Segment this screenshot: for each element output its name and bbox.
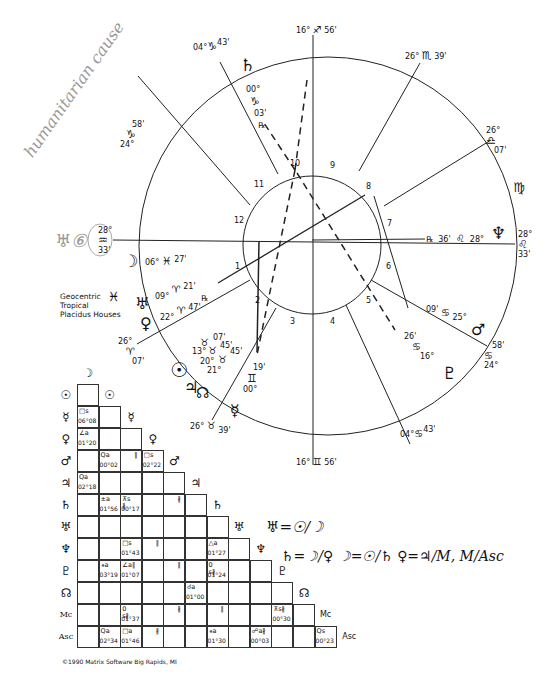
grid-cell (142, 626, 164, 648)
mars-position: 09' ♋ 25° (426, 303, 467, 314)
grid-cell (77, 604, 99, 626)
cusp12-label: 26° ♎ 07' (486, 126, 506, 156)
dsc-cusp-label: 28° ♌ 33' (518, 230, 532, 260)
grid-cell (77, 626, 99, 648)
grid-cell (207, 582, 229, 604)
grid-col-head-3: ♀ (142, 432, 164, 446)
grid-cell (120, 582, 142, 604)
aspect-symbol: Qa (79, 474, 88, 481)
grid-col-head-9: ♇ (271, 564, 293, 578)
neptune-icon: ♆ (491, 226, 506, 241)
aspect-line-dashed-2 (295, 80, 307, 170)
moon-position: 06° ♓ 27' (145, 255, 187, 268)
cusp3-label: 26° ♉ 39' (190, 420, 231, 431)
grid-cell (99, 582, 121, 604)
aspect-symbol: △a (209, 540, 218, 547)
aspect-symbol: ∠a∥ (122, 562, 135, 569)
house-number-7: 7 (387, 219, 392, 228)
grid-cell (185, 604, 207, 626)
grid-cell (185, 516, 207, 538)
aspect-orb: 01°00 (186, 593, 204, 600)
saturn-position: 00° ♑ 03' ℞ (246, 84, 266, 132)
grid-col-head-11: Mc (315, 608, 337, 622)
asc-cusp-label: 28° ♒ 33' (98, 226, 112, 256)
house-number-1: 1 (235, 262, 240, 271)
aspect-orb: 06°08 (78, 417, 96, 424)
taurus-stellium: 07' ♉ 45' 45' 13° ♉ ♉ 20° 21° (190, 333, 250, 383)
neptune-pointer (312, 239, 425, 240)
scorpio-icon: ♏ (422, 49, 432, 62)
aspect-orb: 02°18 (78, 483, 96, 490)
grid-cell (77, 582, 99, 604)
grid-col-head-7: ♅ (228, 520, 250, 534)
aries-icon: ♈ (172, 284, 181, 295)
pencil-mark-uranus-6: ♅⑥ (55, 230, 87, 251)
house-number-3: 3 (290, 317, 295, 326)
grid-cell (250, 582, 272, 604)
venus-icon: ♀ (140, 316, 152, 331)
cancer-icon: ♋ (404, 342, 434, 352)
ink-note-uranus-midpoint: ♅=☉/☽ (266, 518, 323, 536)
mercury-icon: ☿ (230, 403, 240, 418)
capricorn-icon: ♑ (120, 130, 144, 140)
aspect-orb: 01°43 (121, 549, 139, 556)
grid-cell (120, 450, 142, 472)
aspect-orb: 00°02 (100, 461, 118, 468)
aspect-line-dashed-1 (257, 170, 295, 355)
grid-row-head-9: ☊ (57, 586, 75, 600)
aries-icon: ♈ (177, 305, 186, 316)
grid-cell (228, 626, 250, 648)
cusp6-label: 58' ♋ 24° (484, 341, 504, 371)
aspect-symbol: ☌a (187, 584, 195, 591)
retrograde-icon: ℞ (426, 235, 433, 244)
aspect-orb: 03°19 (100, 571, 118, 578)
grid-col-head-end: Asc (338, 630, 360, 644)
pluto-icon: ♇ (442, 366, 457, 381)
grid-cell (228, 604, 250, 626)
house-number-8: 8 (366, 182, 371, 191)
grid-cell (207, 516, 229, 538)
grid-row-head-10: Mc (57, 608, 75, 622)
grid-col-head-2: ☿ (120, 410, 142, 424)
grid-cell (120, 428, 142, 450)
grid-cell (163, 604, 185, 626)
taurus-icon: ♉ (218, 355, 227, 364)
aspect-orb: 01°46 (121, 637, 139, 644)
sun-icon: ☉ (170, 363, 188, 378)
grid-cell (250, 560, 272, 582)
cusp-12 (384, 140, 491, 206)
grid-row-head-11: Asc (57, 630, 75, 644)
aspect-symbol: ∠a (79, 430, 89, 437)
node-icon: ☊ (196, 386, 209, 401)
grid-row-head-0: ☉ (57, 388, 75, 402)
aspect-symbol: □a (122, 628, 132, 635)
grid-cell (163, 582, 185, 604)
neptune-position: ℞ 36' ♌ 28° (426, 233, 484, 244)
aspect-symbol: ⚹a (101, 562, 109, 569)
cusp-5 (346, 305, 410, 444)
cusp9-label: 04°♑43' (193, 40, 229, 53)
house-number-5: 5 (366, 296, 371, 305)
grid-cell (250, 604, 272, 626)
grid-cell (163, 472, 185, 494)
aspect-symbol: □s (79, 408, 89, 415)
grid-row-head-7: ♆ (57, 542, 75, 556)
grid-cell (99, 538, 121, 560)
grid-cell (185, 560, 207, 582)
pisces-icon: ♓ (162, 255, 172, 268)
aspect-orb: 02°22 (143, 461, 161, 468)
grid-cell (99, 516, 121, 538)
grid-row-head-4: ♃ (57, 476, 75, 490)
ic-cusp-label: 16° ♊ 56' (296, 456, 337, 467)
grid-col-head-4: ♂ (163, 454, 185, 468)
chart-info: Geocentric Tropical Placidus Houses (60, 292, 121, 319)
uranus-icon: ♅ (135, 296, 149, 311)
grid-cell (142, 494, 164, 516)
aspect-symbol: ±a (101, 496, 110, 503)
grid-cell (142, 582, 164, 604)
cusp5-label: 04°♋43' (400, 428, 436, 439)
grid-cell (185, 626, 207, 648)
aspect-orb: 01°56 (100, 505, 118, 512)
retrograde-icon: ℞ (201, 294, 208, 303)
grid-cell (163, 626, 185, 648)
